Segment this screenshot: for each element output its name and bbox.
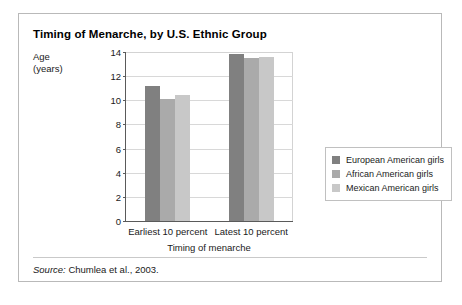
bar bbox=[160, 99, 175, 221]
bar bbox=[175, 95, 190, 221]
plot-frame-right bbox=[292, 52, 293, 221]
source-note: Source: Chumlea et al., 2003. bbox=[33, 264, 159, 275]
legend-swatch bbox=[332, 184, 340, 192]
y-tick-mark bbox=[123, 124, 126, 125]
y-tick-mark bbox=[123, 100, 126, 101]
bar bbox=[145, 86, 160, 221]
y-tick-label: 0 bbox=[116, 216, 121, 227]
legend-label: Mexican American girls bbox=[346, 183, 439, 193]
y-axis-title: Age (years) bbox=[33, 51, 63, 75]
y-tick-mark bbox=[123, 173, 126, 174]
figure-card: Timing of Menarche, by U.S. Ethnic Group… bbox=[18, 13, 442, 282]
y-tick-mark bbox=[123, 221, 126, 222]
plot-area: 02468101214 Earliest 10 percentLatest 10… bbox=[125, 52, 293, 222]
legend: European American girlsAfrican American … bbox=[325, 147, 452, 201]
bar bbox=[259, 57, 274, 221]
y-tick-mark bbox=[123, 149, 126, 150]
y-tick-label: 12 bbox=[110, 71, 121, 82]
y-tick-label: 6 bbox=[116, 143, 121, 154]
bar bbox=[244, 58, 259, 221]
bar-group bbox=[229, 52, 274, 221]
legend-label: African American girls bbox=[346, 169, 433, 179]
bar-group bbox=[145, 52, 190, 221]
y-tick-label: 8 bbox=[116, 119, 121, 130]
x-tick-label: Latest 10 percent bbox=[215, 226, 288, 237]
y-axis-title-line2: (years) bbox=[33, 63, 63, 75]
legend-swatch bbox=[332, 170, 340, 178]
legend-swatch bbox=[332, 156, 340, 164]
legend-item: African American girls bbox=[332, 167, 444, 181]
figure-title: Timing of Menarche, by U.S. Ethnic Group bbox=[33, 28, 267, 40]
y-tick-label: 10 bbox=[110, 95, 121, 106]
source-label: Source: bbox=[33, 264, 66, 275]
y-tick-label: 4 bbox=[116, 167, 121, 178]
y-tick-mark bbox=[123, 52, 126, 53]
y-tick-mark bbox=[123, 76, 126, 77]
y-tick-label: 2 bbox=[116, 191, 121, 202]
y-tick-mark bbox=[123, 197, 126, 198]
legend-item: European American girls bbox=[332, 153, 444, 167]
source-citation: Chumlea et al., 2003. bbox=[66, 264, 159, 275]
legend-item: Mexican American girls bbox=[332, 181, 444, 195]
y-tick-label: 14 bbox=[110, 47, 121, 58]
bar bbox=[229, 54, 244, 221]
x-axis-title: Timing of menarche bbox=[125, 242, 293, 253]
y-axis-title-line1: Age bbox=[33, 51, 63, 63]
source-divider bbox=[33, 257, 427, 258]
legend-label: European American girls bbox=[346, 155, 444, 165]
x-tick-label: Earliest 10 percent bbox=[128, 226, 207, 237]
